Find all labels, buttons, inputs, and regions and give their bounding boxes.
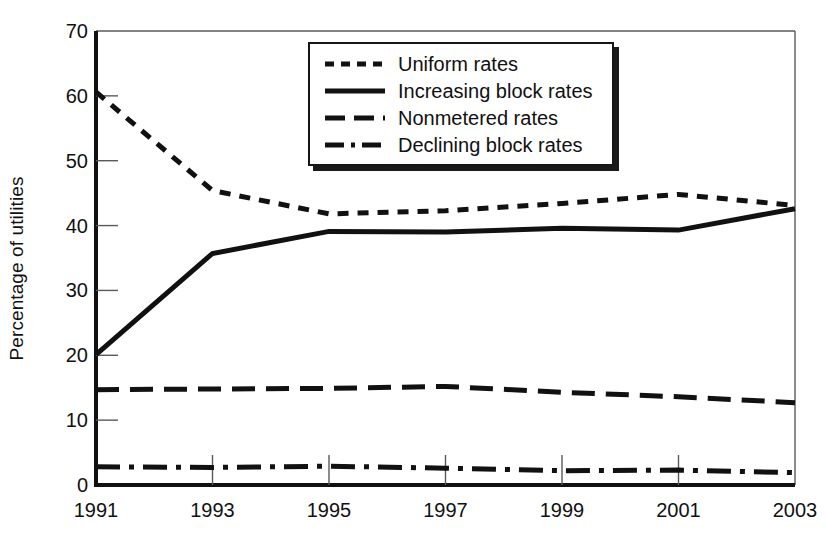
legend-item: Uniform rates bbox=[310, 50, 612, 77]
series-line bbox=[96, 386, 795, 402]
legend-label: Increasing block rates bbox=[398, 81, 593, 101]
chart-legend: Uniform rates Increasing block rates Non… bbox=[308, 42, 614, 166]
legend-swatch-dash-dot bbox=[324, 138, 386, 152]
legend-swatch-dashed bbox=[324, 111, 386, 125]
legend-label: Uniform rates bbox=[398, 54, 518, 74]
legend-item: Declining block rates bbox=[310, 131, 612, 158]
series-line bbox=[96, 209, 795, 355]
legend-item: Increasing block rates bbox=[310, 77, 612, 104]
legend-label: Nonmetered rates bbox=[398, 108, 558, 128]
legend-label: Declining block rates bbox=[398, 135, 583, 155]
legend-swatch-dotted bbox=[324, 57, 386, 71]
legend-swatch-solid bbox=[324, 84, 386, 98]
legend-item: Nonmetered rates bbox=[310, 104, 612, 131]
chart-figure: Percentage of utilities 010203040506070 … bbox=[0, 0, 826, 537]
